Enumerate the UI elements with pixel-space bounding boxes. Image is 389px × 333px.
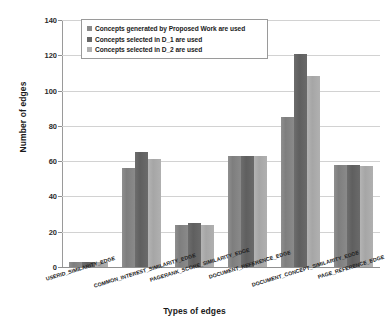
legend-item-1[interactable]: Concepts selected in D_1 are used xyxy=(85,34,263,44)
legend-item-0[interactable]: Concepts generated by Proposed Work are … xyxy=(85,24,263,34)
y-tick-label: 140 xyxy=(44,16,57,25)
bar[interactable] xyxy=(360,166,373,267)
y-axis-title: Number of edges xyxy=(18,67,28,167)
bar-chart: Number of edges 140120100806040200 Conce… xyxy=(0,0,389,333)
y-tick-mark xyxy=(58,267,62,268)
legend-swatch-icon xyxy=(87,26,92,31)
bar[interactable] xyxy=(135,152,148,267)
y-tick-label: 60 xyxy=(49,157,57,166)
bar[interactable] xyxy=(307,76,320,267)
y-tick-label: 40 xyxy=(49,192,57,201)
y-tick-label: 120 xyxy=(44,51,57,60)
bar[interactable] xyxy=(254,156,267,267)
y-tick-label: 80 xyxy=(49,121,57,130)
y-tick-label: 100 xyxy=(44,86,57,95)
chart-legend: Concepts generated by Proposed Work are … xyxy=(81,19,268,59)
bar[interactable] xyxy=(281,117,294,267)
bar-group xyxy=(274,20,327,267)
bar-group xyxy=(327,20,380,267)
bar[interactable] xyxy=(334,165,347,267)
x-axis-title: Types of edges xyxy=(0,306,389,316)
bar[interactable] xyxy=(294,54,307,267)
gridline xyxy=(62,267,380,268)
legend-swatch-icon xyxy=(87,47,92,52)
bar[interactable] xyxy=(148,159,161,267)
legend-label: Concepts selected in D_2 are used xyxy=(95,46,202,53)
y-tick-label: 0 xyxy=(53,263,57,272)
legend-label: Concepts generated by Proposed Work are … xyxy=(95,25,245,32)
legend-swatch-icon xyxy=(87,37,92,42)
legend-label: Concepts selected in D_1 are used xyxy=(95,36,202,43)
bar[interactable] xyxy=(188,223,201,267)
bar[interactable] xyxy=(122,168,135,267)
y-tick-label: 20 xyxy=(49,227,57,236)
legend-item-2[interactable]: Concepts selected in D_2 are used xyxy=(85,45,263,55)
